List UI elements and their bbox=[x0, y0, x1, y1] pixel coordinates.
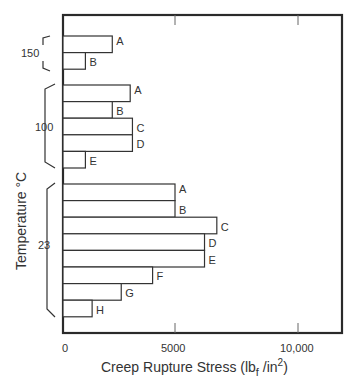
bar-23-H bbox=[63, 300, 92, 317]
bar-label-100-C: C bbox=[136, 122, 144, 134]
temperature-brackets bbox=[43, 36, 55, 317]
y-axis-title: Temperature °C bbox=[13, 172, 29, 270]
bar-label-150-B: B bbox=[89, 56, 96, 68]
bar-150-B bbox=[63, 53, 85, 70]
bar-label-23-E: E bbox=[209, 254, 216, 266]
bar-100-E bbox=[63, 151, 85, 168]
bar-23-F bbox=[63, 267, 153, 284]
bar-label-23-D: D bbox=[209, 237, 217, 249]
bar-23-G bbox=[63, 284, 121, 301]
bracket-150-top bbox=[43, 36, 50, 45]
x-axis-title: Creep Rupture Stress (lbf /in2) bbox=[101, 357, 288, 378]
bar-label-100-D: D bbox=[136, 138, 144, 150]
bar-100-D bbox=[63, 135, 132, 152]
group-label-150: 150 bbox=[21, 47, 39, 59]
bar-label-100-E: E bbox=[89, 155, 96, 167]
bar-label-23-B: B bbox=[179, 204, 186, 216]
bar-150-A bbox=[63, 36, 112, 53]
bar-label-23-F: F bbox=[157, 270, 164, 282]
bar-100-C bbox=[63, 118, 132, 135]
bar-label-100-A: A bbox=[134, 84, 142, 96]
bracket-150-bottom bbox=[43, 61, 50, 71]
bar-label-23-C: C bbox=[221, 221, 229, 233]
bar-100-A bbox=[63, 85, 130, 102]
bar-100-B bbox=[63, 102, 112, 119]
bar-23-E bbox=[63, 250, 205, 267]
x-tick-10000: 10,000 bbox=[280, 342, 314, 354]
chart: ABABCDEABCDEFGH 150 100 23 Temperature °… bbox=[0, 0, 359, 386]
bar-label-23-A: A bbox=[179, 183, 187, 195]
bar-23-C bbox=[63, 217, 217, 234]
bar-label-150-A: A bbox=[116, 35, 124, 47]
bar-23-D bbox=[63, 234, 205, 251]
bar-label-23-H: H bbox=[96, 304, 104, 316]
x-tick-5000: 5000 bbox=[161, 342, 185, 354]
bar-23-B bbox=[63, 201, 175, 218]
bar-23-A bbox=[63, 184, 175, 201]
group-label-23: 23 bbox=[38, 239, 50, 251]
bar-label-23-G: G bbox=[125, 287, 134, 299]
group-label-100: 100 bbox=[35, 121, 53, 133]
bars-group bbox=[63, 36, 217, 317]
x-tick-0: 0 bbox=[62, 342, 68, 354]
bar-label-100-B: B bbox=[116, 105, 123, 117]
